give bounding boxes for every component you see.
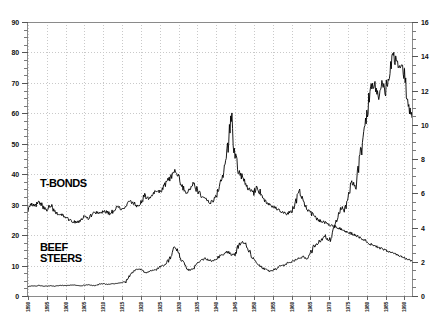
bottom-tick-label: 1955: [270, 302, 275, 312]
series-curves: [28, 22, 412, 296]
right-tick-minor: [412, 65, 416, 66]
right-tick-label: 14: [421, 53, 428, 60]
right-tick-label: 8: [421, 156, 425, 163]
right-tick-major: [412, 22, 418, 23]
right-tick-label: 0: [421, 293, 425, 300]
right-tick-major: [412, 125, 418, 126]
right-tick-label: 12: [421, 87, 428, 94]
right-tick-minor: [412, 108, 416, 109]
series-label-t-bonds: T-BONDS: [40, 178, 87, 189]
bottom-tick-label: 1970: [327, 302, 332, 312]
bottom-tick: [310, 296, 311, 300]
right-tick-minor: [412, 116, 416, 117]
bottom-tick-label: 1895: [44, 302, 49, 312]
bottom-tick: [103, 296, 104, 300]
bottom-tick-label: 1940: [214, 302, 219, 312]
right-tick-minor: [412, 39, 416, 40]
bottom-tick: [66, 296, 67, 300]
bottom-tick-label: 1945: [233, 302, 238, 312]
bottom-tick-label: 1935: [195, 302, 200, 312]
bottom-tick: [197, 296, 198, 300]
left-axis: 0102030405060708090: [0, 22, 28, 296]
right-tick-major: [412, 262, 418, 263]
left-tick-label: 50: [12, 140, 19, 147]
right-tick-major: [412, 228, 418, 229]
right-tick-major: [412, 56, 418, 57]
right-tick-minor: [412, 48, 416, 49]
bottom-tick-label: 1985: [383, 302, 388, 312]
right-tick-minor: [412, 31, 416, 32]
right-tick-minor: [412, 82, 416, 83]
bottom-tick: [273, 296, 274, 300]
right-tick-minor: [412, 287, 416, 288]
right-tick-label: 4: [421, 224, 425, 231]
left-tick-label: 10: [12, 262, 19, 269]
bottom-tick: [216, 296, 217, 300]
bottom-tick-label: 1905: [82, 302, 87, 312]
bottom-tick-label: 1975: [346, 302, 351, 312]
bottom-tick: [329, 296, 330, 300]
bottom-tick-label: 1950: [251, 302, 256, 312]
bottom-tick-label: 1980: [364, 302, 369, 312]
right-tick-minor: [412, 133, 416, 134]
series-line-beef-steers: [28, 52, 412, 286]
right-tick-minor: [412, 236, 416, 237]
right-tick-minor: [412, 245, 416, 246]
right-tick-label: 10: [421, 121, 428, 128]
bottom-tick: [141, 296, 142, 300]
left-tick-label: 0: [15, 293, 19, 300]
bottom-tick-label: 1920: [138, 302, 143, 312]
bottom-tick: [84, 296, 85, 300]
right-tick-major: [412, 91, 418, 92]
right-tick-major: [412, 296, 418, 297]
right-tick-major: [412, 193, 418, 194]
left-tick-label: 20: [12, 232, 19, 239]
left-tick-label: 70: [12, 79, 19, 86]
right-tick-minor: [412, 270, 416, 271]
right-tick-label: 2: [421, 258, 425, 265]
right-tick-minor: [412, 99, 416, 100]
bottom-tick-label: 1960: [289, 302, 294, 312]
left-tick-label: 80: [12, 49, 19, 56]
bottom-tick: [254, 296, 255, 300]
bottom-tick: [367, 296, 368, 300]
bottom-tick-label: 1910: [101, 302, 106, 312]
right-tick-minor: [412, 73, 416, 74]
right-tick-minor: [412, 253, 416, 254]
bottom-tick-label: 1930: [176, 302, 181, 312]
right-axis: 0246810121416: [412, 22, 437, 296]
right-tick-minor: [412, 176, 416, 177]
bottom-tick-label: 1915: [120, 302, 125, 312]
bottom-tick: [179, 296, 180, 300]
bottom-tick: [160, 296, 161, 300]
bottom-tick: [28, 296, 29, 300]
bottom-axis-line: [28, 296, 412, 297]
right-tick-minor: [412, 219, 416, 220]
right-tick-major: [412, 159, 418, 160]
bottom-tick-label: 1890: [26, 302, 31, 312]
right-tick-label: 6: [421, 190, 425, 197]
right-tick-minor: [412, 168, 416, 169]
bottom-tick: [47, 296, 48, 300]
left-tick-label: 30: [12, 201, 19, 208]
bottom-tick-label: 1925: [157, 302, 162, 312]
right-tick-label: 16: [421, 19, 428, 26]
plot-area: [28, 22, 412, 296]
bottom-tick-label: 1900: [63, 302, 68, 312]
bottom-tick: [404, 296, 405, 300]
right-tick-minor: [412, 210, 416, 211]
right-tick-minor: [412, 150, 416, 151]
bottom-tick: [292, 296, 293, 300]
bottom-tick: [235, 296, 236, 300]
bottom-tick: [348, 296, 349, 300]
right-tick-minor: [412, 142, 416, 143]
bottom-axis: 1890189519001905191019151920192519301935…: [28, 296, 412, 327]
bottom-tick-label: 1965: [308, 302, 313, 312]
chart-figure: 0102030405060708090 0246810121416 189018…: [0, 0, 437, 327]
series-label-beef-steers: BEEF STEERS: [40, 242, 82, 264]
bottom-tick: [122, 296, 123, 300]
right-tick-minor: [412, 279, 416, 280]
left-tick-label: 40: [12, 171, 19, 178]
left-tick-label: 60: [12, 110, 19, 117]
plot-top-border: [28, 22, 412, 23]
